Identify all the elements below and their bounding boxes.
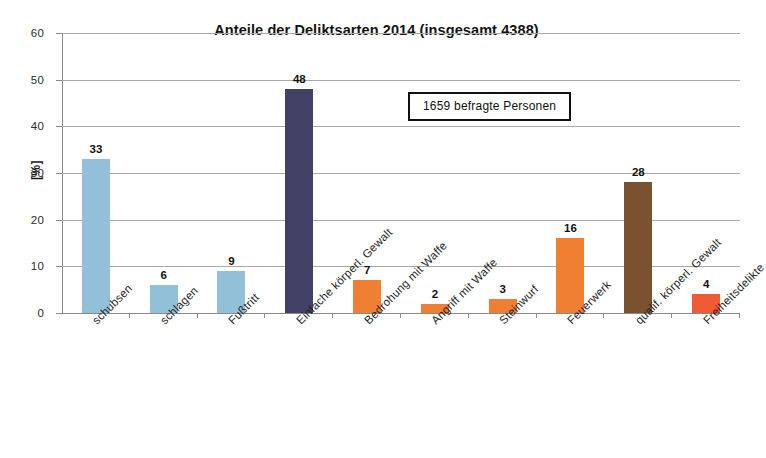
bar-value-label: 16 xyxy=(540,222,600,234)
bar-slot: 9 xyxy=(198,33,266,313)
bar xyxy=(82,159,110,313)
bar-value-label: 33 xyxy=(66,143,126,155)
y-tick-label-10: 10 xyxy=(0,260,44,272)
bar xyxy=(285,89,313,313)
bar-slot: 33 xyxy=(62,33,130,313)
y-tick-label-60: 60 xyxy=(0,27,44,39)
y-tick-label-50: 50 xyxy=(0,74,44,86)
bar-slot: 16 xyxy=(537,33,605,313)
y-tick-mark-0 xyxy=(56,313,62,314)
bar-value-label: 48 xyxy=(269,73,329,85)
bar-slot: 48 xyxy=(265,33,333,313)
y-tick-label-0: 0 xyxy=(0,307,44,319)
bar-value-label: 28 xyxy=(608,166,668,178)
bar-slot: 6 xyxy=(130,33,198,313)
x-axis-tick-labels: schubsenschlagenFußtrittEinfache körperl… xyxy=(62,318,740,458)
bar-value-label: 6 xyxy=(134,269,194,281)
y-tick-label-30: 30 xyxy=(0,167,44,179)
y-tick-label-20: 20 xyxy=(0,214,44,226)
bar-value-label: 9 xyxy=(201,255,261,267)
plot-area: 33694872316284 xyxy=(62,33,740,313)
annotation-respondents: 1659 befragte Personen xyxy=(408,92,571,121)
y-tick-label-40: 40 xyxy=(0,120,44,132)
bar xyxy=(624,182,652,313)
bar-slot: 28 xyxy=(604,33,672,313)
